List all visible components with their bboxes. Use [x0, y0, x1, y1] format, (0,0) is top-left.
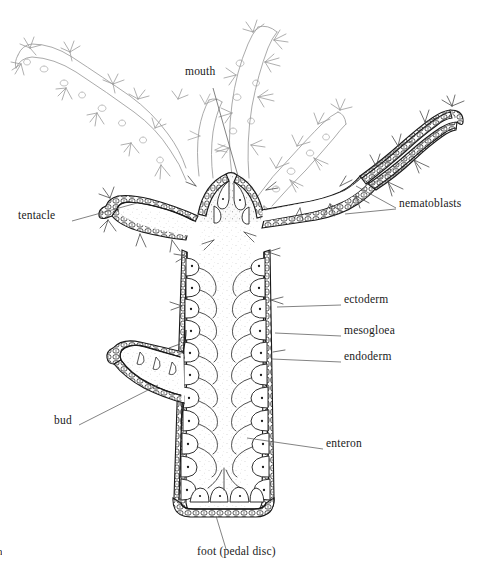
leader-nematoblasts-b: [345, 209, 396, 214]
label-tentacle: tentacle: [18, 209, 55, 221]
hypostome-and-mouth: [198, 172, 264, 224]
label-nematoblasts: nematoblasts: [399, 197, 461, 209]
label-enteron: enteron: [326, 437, 362, 449]
leader-mesogloea: [275, 333, 341, 336]
label-mesogloea: mesogloea: [344, 324, 395, 336]
label-ectoderm: ectoderm: [344, 293, 388, 305]
leader-ectoderm: [277, 305, 341, 307]
bud: [107, 330, 186, 424]
hydra-anatomical-drawing: [0, 0, 477, 574]
hydra-diagram-figure: mouth tentacle nematoblasts ectoderm mes…: [0, 0, 477, 574]
tentacle-center-tall: [216, 20, 288, 178]
label-endoderm: endoderm: [344, 350, 392, 362]
leader-mouth: [213, 88, 238, 176]
cropped-corner-character: n: [0, 545, 2, 557]
label-mouth: mouth: [185, 65, 215, 77]
label-foot-pedal-disc: foot (pedal disc): [197, 545, 276, 557]
tentacle-group-light: [11, 20, 352, 219]
tentacle-upper-left: [11, 37, 188, 180]
label-bud: bud: [54, 414, 72, 426]
leader-endoderm: [272, 359, 341, 362]
tentacle-short-center: [188, 94, 227, 178]
leader-bud: [79, 385, 158, 425]
